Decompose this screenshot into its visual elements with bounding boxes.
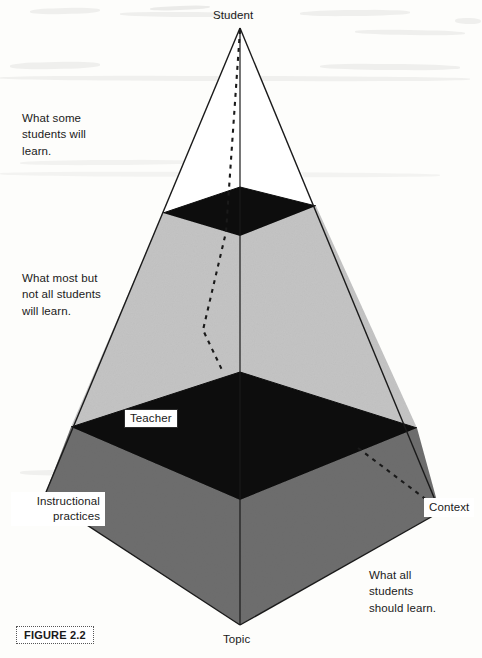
figure-canvas: Student Topic Instructional practices Co… (0, 0, 482, 658)
pyramid-diagram (0, 0, 482, 658)
vertex-label-instructional-practices: Instructional practices (11, 492, 105, 526)
vertex-label-context: Context (424, 498, 474, 517)
vertex-label-student: Student (213, 9, 253, 21)
figure-number-tag: FIGURE 2.2 (16, 626, 94, 644)
vertex-label-topic: Topic (223, 633, 250, 645)
annotation-top: What some students will learn. (22, 110, 132, 159)
annotation-bottom: What all students should learn. (369, 567, 479, 616)
annotation-middle: What most but not all students will lear… (22, 270, 137, 319)
band-label-teacher: Teacher (124, 409, 178, 428)
